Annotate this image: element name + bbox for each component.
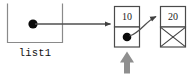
node-2-value-text: 20 xyxy=(168,11,178,22)
variable-label: list1 xyxy=(19,47,52,59)
node-1: 10 xyxy=(115,7,140,48)
node-1-next-pointer-dot xyxy=(123,33,132,42)
diagram-canvas: 10 20 list1 xyxy=(0,0,189,76)
up-arrow-icon xyxy=(120,52,134,74)
node-2: 20 xyxy=(161,7,186,48)
node-1-value-text: 10 xyxy=(122,11,132,22)
linked-list-diagram: 10 20 list1 xyxy=(0,0,189,76)
